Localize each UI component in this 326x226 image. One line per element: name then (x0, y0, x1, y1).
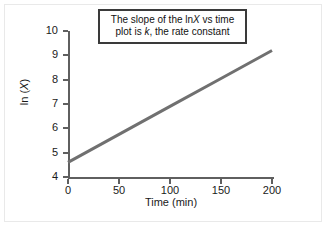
x-tick-label: 150 (201, 185, 241, 196)
annotation-line2-part1: plot is (116, 26, 145, 37)
x-axis-title: Time (min) (68, 196, 274, 208)
annotation-line1-variable: X (193, 14, 200, 25)
y-axis-title: ln (X) (18, 62, 30, 122)
annotation-callout: The slope of the lnX vs time plot is k, … (98, 9, 247, 44)
x-tick-label: 100 (150, 185, 190, 196)
y-axis-line (68, 31, 70, 179)
x-tick-label: 50 (99, 185, 139, 196)
x-tick-label: 200 (252, 185, 292, 196)
y-tick-mark (63, 152, 68, 154)
y-tick-mark (63, 127, 68, 129)
figure-container: 45678910 050100150200 ln (X) Time (min) … (0, 0, 326, 226)
y-tick-mark (63, 103, 68, 105)
y-tick-mark (63, 54, 68, 56)
y-tick-label: 6 (36, 122, 58, 133)
y-axis-title-prefix: ln ( (18, 90, 30, 105)
y-tick-label: 4 (36, 171, 58, 182)
y-tick-mark (63, 30, 68, 32)
annotation-line-2: plot is k, the rate constant (105, 26, 240, 38)
x-tick-label: 0 (48, 185, 88, 196)
y-axis-title-variable: X (18, 83, 30, 90)
annotation-line2-part2: , the rate constant (149, 26, 229, 37)
y-tick-label: 10 (36, 25, 58, 36)
y-tick-label: 7 (36, 98, 58, 109)
annotation-line1-part2: vs time (200, 14, 234, 25)
annotation-line-1: The slope of the lnX vs time (105, 14, 240, 26)
x-axis-line (68, 177, 274, 179)
y-axis-title-suffix: ) (18, 79, 30, 83)
y-tick-label: 5 (36, 147, 58, 158)
y-tick-label: 9 (36, 49, 58, 60)
y-tick-label: 8 (36, 74, 58, 85)
annotation-line1-part1: The slope of the ln (111, 14, 193, 25)
y-tick-mark (63, 79, 68, 81)
y-tick-mark (63, 176, 68, 178)
